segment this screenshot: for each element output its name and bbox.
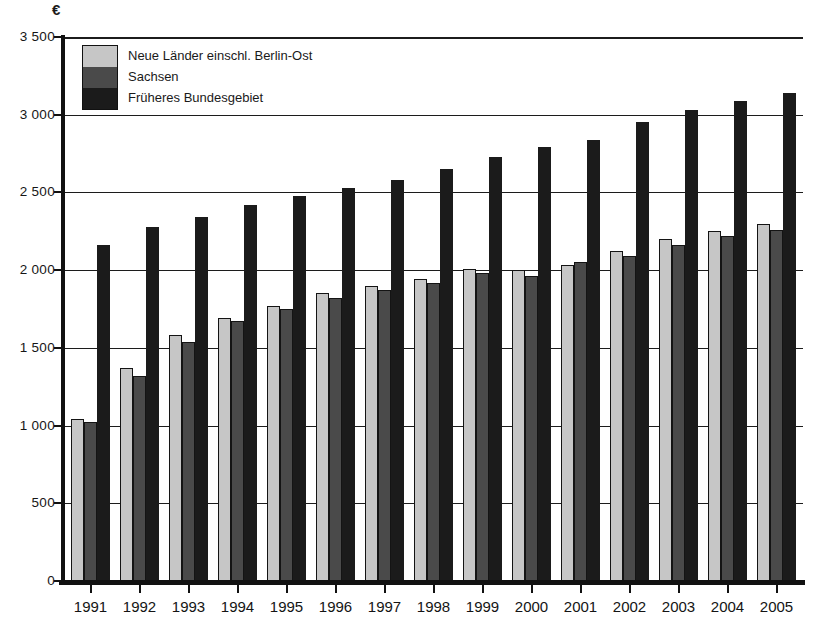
bar-1998-series2: [427, 283, 440, 581]
bar-2001-series1: [561, 265, 574, 581]
bar-2000-series3: [538, 147, 551, 581]
x-label-1993: 1993: [164, 598, 213, 615]
bar-1991-series2: [84, 422, 97, 581]
bar-2000-series1: [512, 270, 525, 581]
bar-2001-series3: [587, 140, 600, 581]
y-tick-label-2500: 2 500: [4, 184, 55, 200]
x-label-2000: 2000: [507, 598, 556, 615]
x-axis-line: [59, 580, 805, 585]
bar-2004-series2: [721, 236, 734, 581]
y-tick-label-3000: 3 000: [4, 107, 55, 123]
y-tick-label-2000: 2 000: [4, 262, 55, 278]
x-label-2004: 2004: [703, 598, 752, 615]
y-tick-label-1000: 1 000: [4, 418, 55, 434]
x-label-2001: 2001: [556, 598, 605, 615]
x-tick-1991: [90, 585, 92, 593]
bar-1992-series2: [133, 376, 146, 581]
bar-2002-series1: [610, 251, 623, 581]
x-tick-2000: [531, 585, 533, 593]
x-tick-2003: [678, 585, 680, 593]
y-tick-2000: [54, 269, 61, 271]
bar-2001-series2: [574, 262, 587, 581]
bar-1994-series1: [218, 318, 231, 581]
x-tick-1992: [139, 585, 141, 593]
y-tick-label-3500: 3 500: [4, 29, 55, 45]
bar-2002-series2: [623, 256, 636, 581]
y-tick-3500: [54, 36, 61, 38]
gridline-3500: [62, 37, 803, 39]
bar-1997-series2: [378, 290, 391, 581]
y-tick-1500: [54, 347, 61, 349]
y-axis-unit-label: €: [52, 1, 60, 18]
bar-1994-series3: [244, 205, 257, 581]
x-label-1997: 1997: [360, 598, 409, 615]
y-axis-line: [61, 35, 65, 585]
x-label-1992: 1992: [115, 598, 164, 615]
y-tick-2500: [54, 191, 61, 193]
x-label-1998: 1998: [409, 598, 458, 615]
x-label-1999: 1999: [458, 598, 507, 615]
x-label-1991: 1991: [66, 598, 115, 615]
x-tick-1997: [384, 585, 386, 593]
y-tick-500: [54, 502, 61, 504]
bar-2000-series2: [525, 276, 538, 581]
bar-1995-series2: [280, 309, 293, 581]
legend-swatch-3: [83, 88, 117, 109]
bar-1997-series3: [391, 180, 404, 581]
bar-2004-series1: [708, 231, 721, 581]
bar-2005-series2: [770, 230, 783, 581]
x-tick-1998: [433, 585, 435, 593]
bar-1993-series3: [195, 217, 208, 581]
y-tick-3000: [54, 114, 61, 116]
bar-2004-series3: [734, 101, 747, 581]
bar-1993-series2: [182, 342, 195, 581]
bar-2005-series1: [757, 224, 770, 581]
bar-2005-series3: [783, 93, 796, 581]
x-tick-2005: [776, 585, 778, 593]
x-tick-1995: [286, 585, 288, 593]
bar-1992-series3: [146, 227, 159, 581]
bar-1999-series1: [463, 269, 476, 581]
y-tick-label-1500: 1 500: [4, 340, 55, 356]
bar-1995-series1: [267, 306, 280, 581]
bar-1998-series1: [414, 279, 427, 581]
x-label-2003: 2003: [654, 598, 703, 615]
y-tick-label-0: 0: [4, 573, 55, 589]
bar-1995-series3: [293, 196, 306, 581]
bar-1996-series2: [329, 298, 342, 581]
grouped-bar-chart: € 05001 0001 5002 0002 5003 0003 500 199…: [0, 0, 813, 629]
legend-label-1: Neue Länder einschl. Berlin-Ost: [128, 45, 312, 66]
bar-2003-series2: [672, 245, 685, 581]
x-label-1995: 1995: [262, 598, 311, 615]
y-tick-label-500: 500: [4, 495, 55, 511]
x-tick-1994: [237, 585, 239, 593]
x-label-1994: 1994: [213, 598, 262, 615]
bar-1991-series1: [71, 419, 84, 581]
x-tick-2001: [580, 585, 582, 593]
bar-1993-series1: [169, 335, 182, 581]
bar-1998-series3: [440, 169, 453, 581]
bar-2003-series1: [659, 239, 672, 581]
bar-1992-series1: [120, 368, 133, 581]
legend-label-3: Früheres Bundesgebiet: [128, 87, 263, 108]
x-tick-1993: [188, 585, 190, 593]
bar-1999-series2: [476, 273, 489, 581]
bar-2002-series3: [636, 122, 649, 581]
x-tick-1996: [335, 585, 337, 593]
legend-swatch-1: [83, 46, 117, 67]
legend-label-2: Sachsen: [128, 66, 179, 87]
y-tick-1000: [54, 425, 61, 427]
bar-2003-series3: [685, 110, 698, 581]
bar-1996-series1: [316, 293, 329, 581]
x-tick-1999: [482, 585, 484, 593]
bar-1991-series3: [97, 245, 110, 581]
x-label-2002: 2002: [605, 598, 654, 615]
bar-1994-series2: [231, 321, 244, 581]
legend-swatch-column: [82, 45, 118, 110]
legend-swatch-2: [83, 67, 117, 88]
x-tick-2004: [727, 585, 729, 593]
x-label-1996: 1996: [311, 598, 360, 615]
bar-1997-series1: [365, 286, 378, 581]
bar-1999-series3: [489, 157, 502, 581]
bar-1996-series3: [342, 188, 355, 581]
